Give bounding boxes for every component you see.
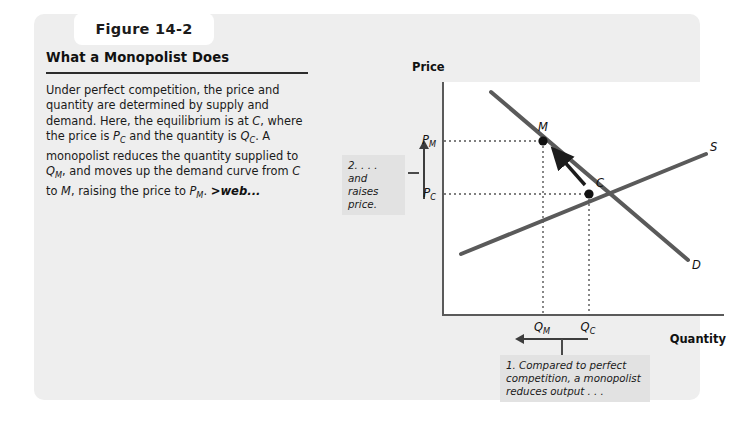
chart-svg bbox=[444, 82, 726, 316]
quantity-reduction-arrow-head bbox=[515, 334, 524, 344]
heading-divider bbox=[46, 72, 308, 74]
y-tick-label-pc: PC bbox=[410, 186, 436, 202]
figure-screenshot: Figure 14-2 What a Monopolist Does Under… bbox=[0, 0, 734, 425]
callout-reduces-output: 1. Compared to perfect competition, a mo… bbox=[500, 355, 650, 402]
point-c-marker bbox=[584, 189, 593, 198]
x-tick-label-qc: QC bbox=[572, 320, 604, 336]
quantity-reduction-arrow-line bbox=[524, 338, 588, 340]
figure-number-tab: Figure 14-2 bbox=[74, 13, 214, 45]
x-tick-label-qm: QM bbox=[526, 320, 558, 336]
supply-curve-label: S bbox=[710, 140, 717, 154]
chart-container: Price bbox=[408, 68, 724, 324]
figure-text-column: What a Monopolist Does Under perfect com… bbox=[46, 50, 314, 204]
callout-1-leader-line bbox=[561, 339, 563, 355]
point-m-label: M bbox=[538, 120, 548, 134]
point-m-marker bbox=[538, 136, 547, 145]
figure-card: Figure 14-2 What a Monopolist Does Under… bbox=[34, 14, 700, 400]
x-axis-title: Quantity bbox=[670, 332, 726, 346]
plot-area: M C S D bbox=[442, 82, 724, 316]
figure-heading: What a Monopolist Does bbox=[46, 50, 314, 65]
y-tick-label-pm: PM bbox=[410, 133, 436, 149]
figure-number-label: Figure 14-2 bbox=[95, 21, 192, 37]
point-c-label: C bbox=[596, 176, 604, 190]
figure-body-text: Under perfect competition, the price and… bbox=[46, 83, 304, 204]
demand-curve-label: D bbox=[692, 258, 701, 272]
y-axis-title: Price bbox=[412, 60, 445, 74]
callout-raises-price: 2. . . . and raises price. bbox=[342, 155, 405, 215]
